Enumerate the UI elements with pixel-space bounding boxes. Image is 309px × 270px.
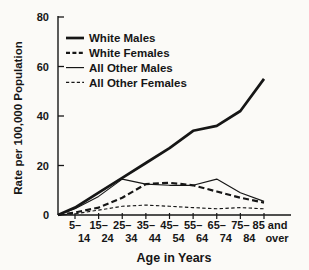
x-tick-label-line1: 15– — [89, 219, 107, 231]
y-tick-label: 20 — [37, 160, 49, 172]
x-tick-label-line2: 24 — [102, 232, 115, 244]
mortality-rate-by-age-chart: 0204060805–1415–2425–3435–4445–5455–6465… — [0, 0, 309, 270]
x-tick-label-line2: 54 — [172, 232, 185, 244]
x-tick-label-line1: 5– — [69, 219, 81, 231]
y-tick-label: 40 — [37, 110, 49, 122]
legend-label: White Males — [89, 32, 155, 44]
x-tick-label-line2: over — [265, 232, 289, 244]
x-tick-label-line1: 25– — [113, 219, 131, 231]
x-tick-label-line2: 14 — [78, 232, 91, 244]
legend-label: All Other Females — [89, 77, 187, 89]
y-tick-label: 60 — [37, 61, 49, 73]
legend-label: All Other Males — [89, 62, 173, 74]
x-tick-label-line1: 75– — [231, 219, 249, 231]
line-chart-canvas: 0204060805–1415–2425–3435–4445–5455–6465… — [0, 0, 309, 270]
x-tick-label-line1: 55– — [184, 219, 202, 231]
y-axis-title: Rate per 100,000 Population — [12, 41, 24, 194]
x-tick-label-line2: 74 — [220, 232, 233, 244]
y-tick-label: 80 — [37, 11, 49, 23]
x-axis-title: Age in Years — [137, 251, 212, 265]
x-tick-label-line1: 35– — [137, 219, 155, 231]
x-tick-label-line1: 45– — [160, 219, 178, 231]
y-tick-label: 0 — [43, 209, 49, 221]
x-tick-label-line2: 84 — [243, 232, 256, 244]
legend-label: White Females — [89, 47, 170, 59]
x-tick-label-line2: 44 — [149, 232, 162, 244]
x-tick-label-line2: 34 — [125, 232, 138, 244]
x-tick-label-line2: 64 — [196, 232, 209, 244]
series-line-white-males — [58, 79, 264, 215]
x-tick-label-line1: 85 and — [253, 219, 288, 231]
x-tick-label-line1: 65– — [208, 219, 226, 231]
